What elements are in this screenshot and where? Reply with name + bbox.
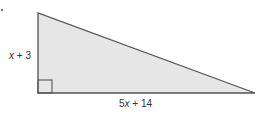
bullet-dot: [1, 9, 3, 11]
triangle-diagram: x + 3 5x + 14: [0, 0, 269, 117]
right-triangle: [38, 13, 255, 93]
height-label: x + 3: [8, 50, 31, 61]
base-label: 5x + 14: [119, 98, 153, 109]
